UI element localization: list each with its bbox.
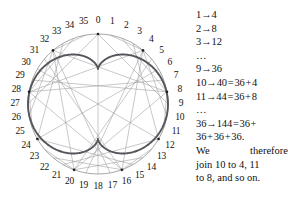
explain-ellipsis-2: … xyxy=(196,103,288,117)
explain-prose-line-2: join 10 to 4, 11 xyxy=(196,158,288,172)
circle-point-marker xyxy=(73,168,76,171)
point-label-4: 4 xyxy=(149,36,154,46)
point-label-10: 10 xyxy=(175,114,184,124)
explain-prose-word-we: We xyxy=(196,144,210,158)
circle-point-marker xyxy=(36,138,39,141)
chord-line xyxy=(53,35,86,50)
point-label-32: 32 xyxy=(40,36,49,46)
explain-prose-line-1: We therefore xyxy=(196,144,288,158)
chord-line xyxy=(53,158,122,170)
chord-line xyxy=(110,35,143,50)
circle-point-marker xyxy=(157,138,160,141)
explanation-text-block: 1→4 2→8 3→12 … 9→36 10→40 = 36 + 4 11→44… xyxy=(196,8,288,185)
point-label-28: 28 xyxy=(12,85,21,95)
circle-point-marker xyxy=(97,33,100,36)
circle-point-marker xyxy=(142,49,145,52)
point-label-29: 29 xyxy=(15,71,24,81)
point-label-13: 13 xyxy=(157,153,166,163)
chord-line xyxy=(98,34,168,104)
point-label-7: 7 xyxy=(174,71,179,81)
figure-container: 0123456789101112131415161718192021222324… xyxy=(0,0,288,213)
point-label-22: 22 xyxy=(40,163,49,173)
point-label-5: 5 xyxy=(159,46,164,56)
explain-line-4: 9→36 xyxy=(196,62,288,76)
point-label-19: 19 xyxy=(79,181,88,191)
circle-point-marker xyxy=(52,49,55,52)
point-label-27: 27 xyxy=(10,99,19,109)
point-label-35: 35 xyxy=(79,18,88,28)
point-label-18: 18 xyxy=(93,182,102,192)
point-label-23: 23 xyxy=(30,153,39,163)
point-label-33: 33 xyxy=(52,27,61,37)
point-label-8: 8 xyxy=(177,85,182,95)
point-label-26: 26 xyxy=(12,114,21,124)
point-label-20: 20 xyxy=(65,177,74,187)
point-label-34: 34 xyxy=(65,21,74,31)
point-label-24: 24 xyxy=(22,141,31,151)
explain-line-5: 10→40 = 36 + 4 xyxy=(196,76,288,90)
explain-prose-word-therefore: therefore xyxy=(250,144,288,158)
explain-line-3: 3→12 xyxy=(196,35,288,49)
point-label-21: 21 xyxy=(52,171,61,181)
point-label-14: 14 xyxy=(147,163,156,173)
explain-line-7: 36→144 = 36 + xyxy=(196,117,288,131)
explain-line-1: 1→4 xyxy=(196,8,288,22)
explain-line-8: 36 + 36 + 36. xyxy=(196,130,288,144)
point-label-12: 12 xyxy=(165,141,174,151)
point-label-11: 11 xyxy=(172,128,181,138)
point-label-9: 9 xyxy=(179,99,184,109)
explain-line-6: 11→44 = 36 + 8 xyxy=(196,90,288,104)
point-label-25: 25 xyxy=(15,128,24,138)
point-label-15: 15 xyxy=(135,171,144,181)
chord-line xyxy=(29,80,164,92)
explain-prose-line-3: to 8, and so on. xyxy=(196,171,288,185)
chord-line xyxy=(86,50,143,173)
explain-ellipsis-1: … xyxy=(196,49,288,63)
point-label-16: 16 xyxy=(122,177,131,187)
point-label-30: 30 xyxy=(22,58,31,68)
point-label-1: 1 xyxy=(110,18,115,28)
circle-point-marker xyxy=(166,90,169,93)
point-label-31: 31 xyxy=(30,46,39,56)
chord-line xyxy=(74,158,143,170)
point-label-17: 17 xyxy=(108,181,117,191)
explain-line-2: 2→8 xyxy=(196,22,288,36)
point-label-0: 0 xyxy=(96,16,101,26)
point-label-2: 2 xyxy=(124,21,129,31)
point-label-6: 6 xyxy=(168,58,173,68)
circle-point-marker xyxy=(121,168,124,171)
chord-lines-group xyxy=(28,34,168,174)
circle-point-marker xyxy=(28,90,31,93)
point-label-3: 3 xyxy=(137,27,142,37)
